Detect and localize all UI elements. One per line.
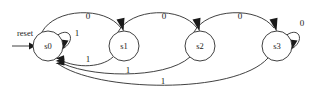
transition-label-s3-s0: 1 (161, 76, 166, 86)
reset-input-arrow (12, 43, 36, 50)
transition-s0-to-s1 (42, 13, 125, 32)
state-node-s2[interactable]: s2 (185, 31, 215, 61)
state-label-s0: s0 (44, 41, 52, 51)
transition-label-s1-s0: 1 (86, 54, 91, 64)
transition-label-s3-self: 0 (300, 18, 305, 28)
state-label-s3: s3 (273, 41, 281, 51)
state-node-s1[interactable]: s1 (109, 31, 139, 61)
transition-label-s0-self: 1 (75, 28, 80, 38)
state-label-s1: s1 (120, 41, 128, 51)
transition-label-s1-s2: 0 (162, 11, 167, 21)
transition-s2-s3-arc (194, 13, 274, 32)
transition-s1-s2-arc (118, 13, 197, 32)
state-node-s3[interactable]: s3 (262, 31, 292, 61)
transition-s2-to-s3 (194, 13, 278, 32)
state-machine-diagram: s0 s1 s2 s3 reset 0 0 0 1 0 1 1 1 (0, 0, 311, 98)
transition-label-s2-s0: 1 (126, 65, 131, 75)
state-label-s2: s2 (196, 41, 204, 51)
transition-s0-s1-arc (42, 13, 121, 32)
state-node-s0[interactable]: s0 (33, 31, 63, 61)
transition-label-s0-s1: 0 (86, 11, 91, 21)
transition-label-s2-s3: 0 (238, 11, 243, 21)
reset-label: reset (17, 28, 34, 38)
transition-s1-to-s2 (118, 13, 201, 32)
